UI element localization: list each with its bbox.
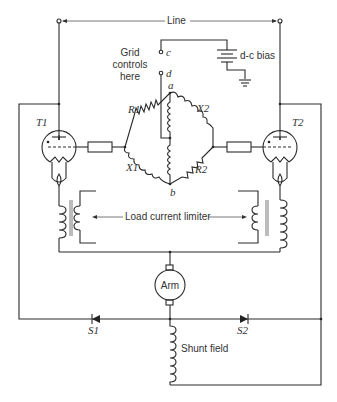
r1-label: R1 bbox=[127, 103, 140, 115]
t2-label: T2 bbox=[292, 116, 304, 128]
armature-motor: Arm bbox=[155, 265, 185, 305]
ground-icon bbox=[239, 80, 251, 86]
thyratron-t1: T1 bbox=[36, 116, 76, 186]
node-b-label: b bbox=[170, 186, 176, 198]
grid-controls-line2: controls bbox=[112, 59, 147, 70]
t1-label: T1 bbox=[36, 116, 48, 128]
x2-label: X2 bbox=[196, 102, 210, 114]
diode-s1: S1 bbox=[88, 314, 100, 336]
shunt-field-coil: Shunt field bbox=[170, 319, 228, 385]
thyratron-t2: T2 bbox=[263, 116, 304, 186]
shunt-field-label: Shunt field bbox=[181, 343, 228, 354]
grid-controls-line1: Grid bbox=[121, 47, 140, 58]
center-coil-lower bbox=[168, 138, 171, 184]
line-supply: Line bbox=[57, 15, 282, 26]
resistor-r1 bbox=[125, 93, 170, 147]
node-a-label: a bbox=[168, 79, 174, 91]
circuit-diagram: Line Grid controls here c d d-c bias bbox=[0, 0, 337, 402]
diode-s2: S2 bbox=[237, 314, 249, 336]
grid-controls-line3: here bbox=[120, 71, 140, 82]
grid-controls: Grid controls here c d d-c bias bbox=[112, 40, 275, 138]
battery-icon bbox=[217, 50, 237, 62]
terminal-d-label: d bbox=[166, 67, 172, 79]
inductor-x2 bbox=[170, 92, 213, 147]
s2-label: S2 bbox=[237, 324, 249, 336]
armature-label: Arm bbox=[161, 280, 179, 291]
line-label: Line bbox=[167, 15, 186, 26]
load-limiter-transformer-right bbox=[238, 186, 287, 252]
r2-label: R2 bbox=[194, 163, 208, 175]
bridge-network: a b R1 X2 X1 R2 bbox=[124, 79, 215, 198]
grid-resistor-left bbox=[88, 142, 112, 152]
x1-label: X1 bbox=[125, 161, 138, 173]
load-limiter-transformer-left bbox=[59, 186, 96, 252]
grid-resistor-right bbox=[227, 142, 251, 152]
dc-bias-label: d-c bias bbox=[240, 50, 275, 61]
terminal-d bbox=[159, 71, 163, 75]
s1-label: S1 bbox=[88, 324, 99, 336]
terminal-c bbox=[159, 50, 163, 54]
terminal-c-label: c bbox=[166, 46, 171, 58]
load-current-limiter-label: Load current limiter bbox=[125, 211, 211, 222]
center-coil-upper bbox=[168, 93, 171, 138]
